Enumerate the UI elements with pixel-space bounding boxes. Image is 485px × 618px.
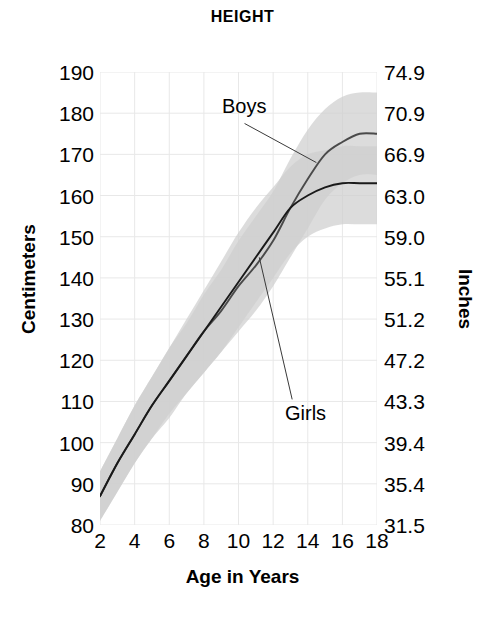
x-tick: 4 [129, 530, 141, 551]
annotation-boys: Boys [222, 96, 266, 116]
y-tick-right: 74.9 [384, 62, 446, 83]
x-tick: 2 [94, 530, 106, 551]
y-axis-right-title: Inches [454, 224, 476, 374]
x-tick: 8 [198, 530, 210, 551]
y-axis-left-ticks: 1901801701601501401301201101009080 [38, 72, 94, 525]
x-tick: 18 [365, 530, 388, 551]
y-tick-right: 66.9 [384, 144, 446, 165]
chart-title: HEIGHT [0, 8, 485, 26]
y-tick-left: 140 [38, 267, 94, 288]
x-axis-ticks: 24681012141618 [100, 530, 377, 558]
y-tick-right: 63.0 [384, 185, 446, 206]
y-tick-right: 43.3 [384, 391, 446, 412]
x-tick: 12 [261, 530, 284, 551]
growth-chart-page: HEIGHT 190180170160150140130120110100908… [0, 0, 485, 618]
y-tick-left: 160 [38, 185, 94, 206]
y-tick-left: 100 [38, 432, 94, 453]
y-tick-right: 39.4 [384, 432, 446, 453]
chart-canvas [100, 72, 377, 525]
y-tick-right: 47.2 [384, 350, 446, 371]
y-tick-left: 130 [38, 309, 94, 330]
y-tick-right: 31.5 [384, 515, 446, 536]
y-axis-right-ticks: 74.970.966.963.059.055.151.247.243.339.4… [384, 72, 446, 525]
y-tick-left: 180 [38, 103, 94, 124]
y-tick-right: 70.9 [384, 103, 446, 124]
y-tick-right: 51.2 [384, 309, 446, 330]
x-tick: 14 [296, 530, 319, 551]
plot-area [100, 72, 377, 525]
y-tick-right: 35.4 [384, 473, 446, 494]
y-tick-left: 120 [38, 350, 94, 371]
x-tick: 6 [163, 530, 175, 551]
x-tick: 10 [227, 530, 250, 551]
x-tick: 16 [331, 530, 354, 551]
y-axis-left-title: Centimeters [18, 184, 40, 374]
y-tick-left: 90 [38, 473, 94, 494]
x-axis-title: Age in Years [0, 566, 485, 588]
y-tick-left: 80 [38, 515, 94, 536]
annotation-girls: Girls [285, 403, 326, 423]
y-tick-left: 170 [38, 144, 94, 165]
y-tick-left: 150 [38, 226, 94, 247]
y-tick-right: 55.1 [384, 267, 446, 288]
y-tick-left: 110 [38, 391, 94, 412]
y-tick-left: 190 [38, 62, 94, 83]
y-tick-right: 59.0 [384, 226, 446, 247]
